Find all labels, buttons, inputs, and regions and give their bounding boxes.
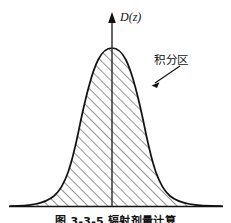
annotation-leader-line [155, 66, 180, 83]
distribution-plot [0, 0, 231, 223]
figure-container: D(z) 积分区 图 3-3-5 辐射剂量计算 [0, 0, 231, 223]
vertical-axis-label: D(z) [120, 10, 141, 25]
integration-region-hatch [0, 0, 231, 223]
integration-region-label: 积分区 [154, 51, 189, 67]
vertical-axis-arrowhead [108, 12, 116, 23]
figure-caption: 图 3-3-5 辐射剂量计算 [0, 212, 231, 223]
